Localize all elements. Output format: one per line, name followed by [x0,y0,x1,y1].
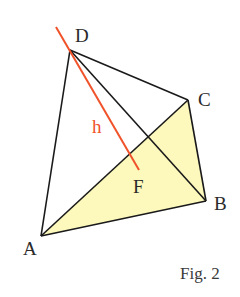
figure-caption: Fig. 2 [180,264,220,283]
height-line-h [56,27,139,170]
label-b: B [214,193,227,214]
base-triangle-abc [41,100,206,236]
edge-dc [70,50,188,100]
figure-2-tetrahedron: D C B A F h Fig. 2 [0,0,240,297]
tetrahedron-diagram: D C B A F h Fig. 2 [0,0,240,297]
edge-da [41,50,70,236]
label-h: h [92,116,102,137]
label-c: C [198,89,211,110]
label-f: F [133,176,144,197]
label-d: D [75,25,89,46]
label-a: A [23,238,37,259]
